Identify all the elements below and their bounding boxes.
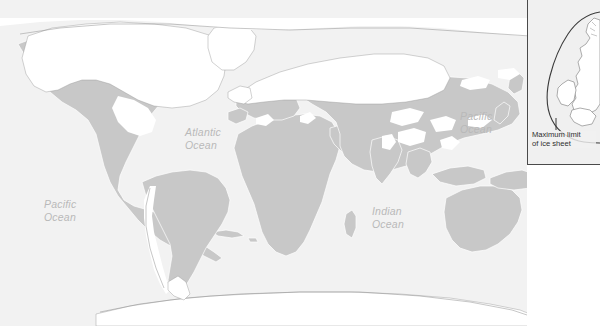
right-margin [527, 165, 598, 326]
ocean-label-pacific-west: Pacific Ocean [44, 198, 76, 223]
inset-panel-british-isles: Maximum limit of ice sheet [527, 0, 600, 165]
ocean-label-atlantic: Atlantic Ocean [185, 126, 221, 151]
ocean-label-indian: Indian Ocean [372, 205, 404, 230]
ocean-label-pacific-east: Pacific Ocean [460, 110, 492, 135]
inset-caption: Maximum limit of ice sheet [532, 131, 596, 148]
